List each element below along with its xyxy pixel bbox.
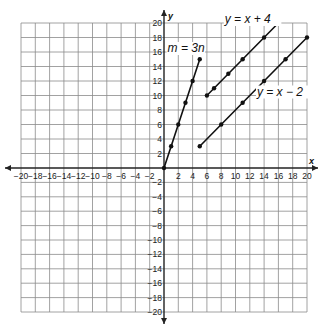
y-axis-label: y [167,11,174,21]
x-tick-label: −6 [116,171,126,181]
data-point [162,166,166,170]
annotations: m = 3ny = x + 4y = x − 2 [167,12,314,99]
coordinate-plane: xy −20−18−16−14−12−10−8−6−4−224681012141… [0,0,323,331]
y-tick-label: −10 [148,235,163,245]
y-tick-label: 2 [157,149,162,159]
data-point [262,79,266,83]
y-tick-label: 16 [153,47,163,57]
y-tick-label: 10 [153,91,163,101]
y-tick-label: 8 [157,105,162,115]
data-point [305,35,309,39]
x-axis-label: x [308,156,315,166]
x-tick-label: −8 [102,171,112,181]
x-tick-label: 4 [190,171,195,181]
x-tick-label: −12 [71,171,86,181]
y-tick-label: −12 [148,249,163,259]
series-annotation: y = x − 2 [256,85,303,99]
y-tick-label: −18 [148,293,163,303]
y-tick-label: −14 [148,264,163,274]
chart-svg: xy −20−18−16−14−12−10−8−6−4−224681012141… [0,0,323,331]
x-tick-label: 20 [302,171,312,181]
x-tick-label: 10 [231,171,241,181]
y-tick-label: −16 [148,278,163,288]
data-point [198,144,202,148]
data-point [262,35,266,39]
data-point [226,72,230,76]
x-tick-label: 14 [259,171,269,181]
data-point [169,144,173,148]
x-axis-arrow-left [5,165,11,171]
x-tick-label: 6 [205,171,210,181]
series-line [164,59,200,168]
data-point [176,122,180,126]
x-tick-label: −10 [85,171,100,181]
x-tick-label: 16 [274,171,284,181]
y-axis-arrow-up [161,10,167,16]
y-tick-label: 14 [153,62,163,72]
data-point [283,57,287,61]
y-tick-label: −2 [152,177,162,187]
data-point [205,93,209,97]
x-tick-label: 8 [219,171,224,181]
y-tick-label: 6 [157,120,162,130]
data-point [198,57,202,61]
data-point [240,57,244,61]
x-tick-label: −18 [28,171,43,181]
x-tick-label: −16 [42,171,57,181]
y-tick-label: 12 [153,76,163,86]
y-tick-label: −4 [152,192,162,202]
y-tick-label: 4 [157,134,162,144]
y-tick-label: 18 [153,33,163,43]
x-tick-label: −20 [14,171,29,181]
x-tick-label: 18 [288,171,298,181]
x-tick-label: 12 [245,171,255,181]
y-tick-label: 20 [153,18,163,28]
series-annotation: m = 3n [168,41,205,55]
data-point [183,101,187,105]
series-annotation: y = x + 4 [224,12,271,26]
data-point [190,79,194,83]
y-tick-label: −20 [148,307,163,317]
y-tick-label: −6 [152,206,162,216]
y-axis-arrow-down [161,318,167,324]
y-tick-label: −8 [152,221,162,231]
data-point [240,101,244,105]
axes: xy [5,10,318,324]
data-point [212,86,216,90]
x-tick-label: −14 [57,171,72,181]
x-tick-label: 2 [176,171,181,181]
data-point [219,122,223,126]
x-tick-label: −4 [131,171,141,181]
